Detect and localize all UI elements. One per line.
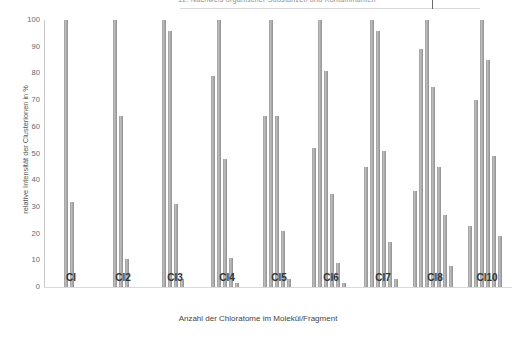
bar: [480, 20, 484, 287]
bar: [275, 116, 279, 287]
bar: [235, 283, 239, 287]
y-tick-label: 80: [18, 69, 40, 77]
y-tick-label: 20: [18, 230, 40, 238]
y-tick-label: 10: [18, 256, 40, 264]
bar-chart: relative Intensität der Clusterionen in …: [0, 0, 516, 339]
bar: [223, 159, 227, 287]
x-group-label: Cl7: [357, 272, 409, 283]
bar: [269, 20, 273, 287]
x-group-label: Cl10: [461, 272, 513, 283]
y-axis-ticks: 1009080706050403020100: [16, 0, 40, 339]
bar-group-bars: [364, 20, 398, 287]
bar: [162, 20, 166, 287]
y-tick-label: 70: [18, 96, 40, 104]
bar: [324, 71, 328, 287]
y-tick-label: 40: [18, 176, 40, 184]
bar-group-bars: [263, 20, 291, 287]
x-group-label: Cl2: [97, 272, 149, 283]
x-group-label: Cl3: [149, 272, 201, 283]
bar-group-bars: [468, 20, 502, 287]
bar-group-bars: [211, 20, 239, 287]
x-group-label: Cl6: [305, 272, 357, 283]
bar: [364, 167, 368, 287]
bar: [318, 20, 322, 287]
bar-group-bars: [312, 20, 346, 287]
bar-group-bars: [64, 20, 74, 287]
bar: [119, 116, 123, 287]
bar: [168, 31, 172, 287]
bar: [419, 49, 423, 287]
y-tick-label: 0: [18, 283, 40, 291]
bar-group-bars: [162, 20, 184, 287]
y-tick-label: 90: [18, 43, 40, 51]
bar: [113, 20, 117, 287]
x-group-label: Cl4: [201, 272, 253, 283]
x-group-label: Cl5: [253, 272, 305, 283]
bar: [382, 151, 386, 287]
bar: [370, 20, 374, 287]
x-group-label: Cl8: [409, 272, 461, 283]
plot-area: [45, 20, 513, 287]
bar: [437, 167, 441, 287]
x-axis-baseline: [44, 287, 512, 288]
bar: [486, 60, 490, 287]
bar: [474, 100, 478, 287]
bar: [263, 116, 267, 287]
bar: [492, 156, 496, 287]
bar: [211, 76, 215, 287]
bar-group-bars: [413, 20, 453, 287]
x-group-label: Cl: [45, 272, 97, 283]
bar-group-bars: [113, 20, 129, 287]
bar: [217, 20, 221, 287]
bar: [312, 148, 316, 287]
y-tick-label: 30: [18, 203, 40, 211]
bar: [376, 31, 380, 287]
y-tick-label: 100: [18, 16, 40, 24]
bar: [64, 20, 68, 287]
x-axis-title: Anzahl der Chloratome im Molekül/Fragmen…: [0, 314, 516, 323]
bar: [431, 87, 435, 287]
y-tick-label: 60: [18, 123, 40, 131]
bar: [425, 20, 429, 287]
bar: [342, 283, 346, 287]
y-tick-label: 50: [18, 150, 40, 158]
